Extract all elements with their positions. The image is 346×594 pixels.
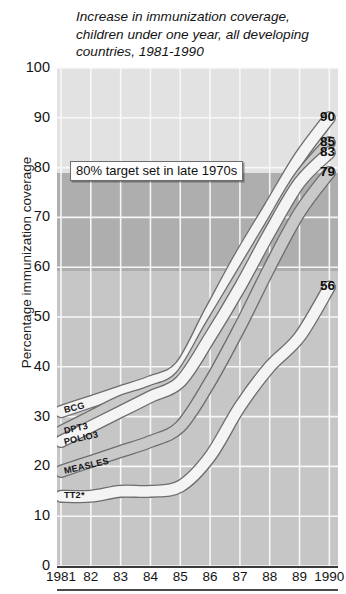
y-tick-label: 90 — [8, 109, 50, 125]
y-tick-label: 70 — [8, 208, 50, 224]
y-tick-label: 80 — [8, 159, 50, 175]
chart-title-line-2: children under one year, all developing — [76, 26, 334, 44]
series-label-tt2: TT2* — [64, 490, 85, 500]
chart-title: Increase in immunization coverage, child… — [76, 8, 334, 61]
chart-container: Increase in immunization coverage, child… — [0, 0, 346, 594]
end-label-polio3: 83 — [320, 144, 335, 159]
x-tick-label: 1990 — [309, 569, 346, 584]
y-tick-label: 100 — [8, 59, 50, 75]
y-tick-label: 40 — [8, 358, 50, 374]
y-tick-label: 60 — [8, 258, 50, 274]
chart-title-line-3: countries, 1981-1990 — [76, 43, 334, 61]
chart-title-line-1: Increase in immunization coverage, — [76, 8, 334, 26]
end-label-bcg: 90 — [320, 109, 335, 124]
chart-plot-area — [0, 0, 346, 594]
end-label-measles: 79 — [320, 164, 335, 179]
y-tick-label: 50 — [8, 308, 50, 324]
y-tick-label: 10 — [8, 507, 50, 523]
y-tick-label: 30 — [8, 408, 50, 424]
target-annotation: 80% target set in late 1970s — [70, 161, 243, 181]
bottom-rule — [57, 589, 338, 591]
end-label-tt2: 56 — [320, 278, 335, 293]
x-axis-line — [57, 566, 338, 568]
y-tick-label: 20 — [8, 457, 50, 473]
